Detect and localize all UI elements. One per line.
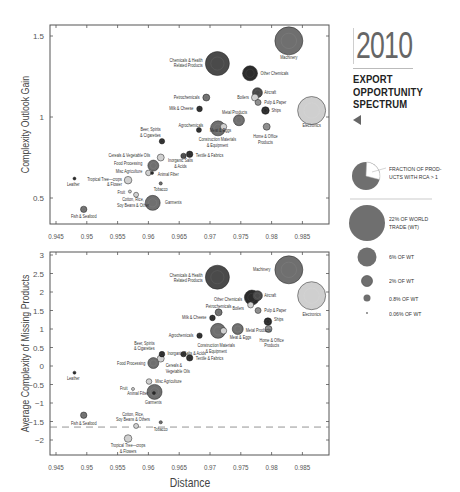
left-arrow-icon[interactable] [353, 115, 361, 125]
bubble-label: Pulp & Paper [264, 308, 287, 313]
bubble-label: Meat & Eggs [230, 334, 252, 339]
bubble[interactable] [203, 94, 210, 101]
bubble[interactable] [124, 176, 132, 184]
bubble-label: Machinery [280, 54, 298, 59]
bubble-label: Petrochemicals [206, 304, 232, 309]
bubble[interactable] [152, 392, 155, 395]
bubble[interactable] [159, 421, 162, 424]
bubble[interactable] [255, 308, 261, 314]
legend-size-2-label: 2% OF WT [389, 277, 414, 285]
legend-size-006-label: 0.06% OF WT [389, 310, 421, 318]
bubble[interactable] [157, 154, 164, 161]
x-tick-label: 0.96 [142, 463, 154, 472]
bubble-label: Cereals & Vegetable Oils [108, 152, 150, 157]
x-tick-label: 0.965 [171, 232, 187, 241]
bubble-label: Agrochemicals [179, 123, 204, 128]
bubble[interactable] [73, 177, 76, 180]
bubble-label: Garments [145, 400, 161, 405]
legend-size-circle-icon [349, 205, 385, 241]
bubble[interactable] [148, 160, 159, 171]
bubble[interactable] [134, 423, 139, 428]
bubble[interactable] [151, 171, 154, 174]
bubble[interactable] [275, 27, 303, 55]
legend-pie-label-line-2: UCTS WITH RCA > 1 [389, 173, 441, 181]
y-tick-label: −1 [35, 399, 45, 408]
bubble[interactable] [81, 412, 87, 418]
legend-size-22-line-2: TRADE (WT) [389, 223, 428, 231]
x-tick-label: 0.98 [266, 232, 278, 241]
top-chart: 0.9450.950.9550.960.9650.970.9750.980.98… [19, 25, 329, 241]
y-tick-label: 1 [40, 113, 45, 122]
bubble[interactable] [73, 371, 76, 374]
bubble-label: Petrochemicals [174, 95, 200, 100]
bubble[interactable] [264, 318, 272, 326]
bubble-label: Ships [274, 317, 283, 322]
bubble-label: Machinery [253, 266, 271, 271]
bubble-label: Boilers [237, 95, 248, 100]
bubble-label: Related Products [174, 63, 203, 68]
bubble[interactable] [248, 302, 254, 308]
bubble[interactable] [233, 115, 244, 126]
bubble[interactable] [298, 282, 326, 310]
bubble-label: Textile & Fabrics [196, 356, 224, 361]
x-tick-label: 0.98 [266, 463, 278, 472]
bubble-label: Meat & Eggs [210, 128, 232, 133]
bubble-label: Products [264, 343, 279, 348]
bubble-label: Fruit [117, 189, 125, 194]
bubble-label: Misc Agriculture [155, 379, 182, 384]
y-tick-label: −2 [35, 436, 45, 445]
bubble-label: & Flowers [120, 448, 137, 453]
bubble-label: & Flower [107, 182, 122, 187]
bubble-label: & Equipment [205, 348, 227, 353]
bubble-label: Electronics [302, 311, 320, 316]
bubble-label: Vegetable Oils [166, 369, 190, 374]
bubble-label: Metal Products [222, 109, 247, 114]
x-tick-label: 0.985 [295, 232, 311, 241]
bubble[interactable] [210, 315, 216, 321]
bubble-label: Metal Products [246, 328, 271, 333]
legend [349, 162, 432, 314]
bubble[interactable] [128, 190, 131, 193]
bubble-label: Fish & Seafood [71, 420, 97, 425]
x-tick-label: 0.95 [81, 232, 93, 241]
bubble[interactable] [205, 52, 229, 76]
bubble[interactable] [252, 291, 262, 301]
bubble-label: Other Chemicals [214, 297, 242, 302]
x-tick-label: 0.945 [48, 463, 64, 472]
bubble[interactable] [298, 97, 326, 125]
bubble[interactable] [124, 435, 132, 443]
bubble[interactable] [215, 309, 222, 316]
bubble[interactable] [197, 333, 202, 338]
y-tick-label: 0.5 [33, 194, 45, 203]
bubble[interactable] [186, 151, 192, 157]
bubble[interactable] [255, 99, 261, 105]
bubble-label: & Acids [174, 163, 187, 168]
subtitle: EXPORT OPPORTUNITY SPECTRUM [353, 73, 439, 111]
bubble[interactable] [159, 139, 164, 144]
y-tick-label: 2 [40, 288, 45, 297]
bubble-label: Soy Beans & Other [117, 202, 150, 207]
bubble-label: Milk & Cheese [182, 315, 207, 320]
x-tick-label: 0.96 [142, 232, 154, 241]
bubble-label: Products [258, 139, 273, 144]
bubble[interactable] [159, 351, 165, 357]
legend-size-22-label: 22% OF WORLD TRADE (WT) [389, 215, 428, 231]
bubble[interactable] [232, 324, 243, 335]
bubble[interactable] [81, 206, 87, 212]
bubble[interactable] [197, 106, 203, 112]
bubble-label: & Cigarettes [134, 346, 155, 351]
bubble[interactable] [243, 66, 258, 81]
bubble-label: Milk & Cheese [169, 106, 194, 111]
year-title: 2010 [353, 28, 429, 64]
bubble[interactable] [205, 265, 229, 289]
bubble[interactable] [146, 379, 152, 385]
bubble-label: Animal Fiber [158, 172, 180, 177]
x-tick-label: 0.955 [110, 463, 126, 472]
bubble[interactable] [263, 123, 270, 130]
bubble-label: Aircraft [264, 90, 277, 95]
bubble[interactable] [159, 182, 162, 185]
bubble[interactable] [275, 256, 303, 284]
bubble[interactable] [220, 328, 226, 334]
bubble[interactable] [262, 107, 270, 115]
bubble-label: Tobacco [154, 186, 169, 191]
